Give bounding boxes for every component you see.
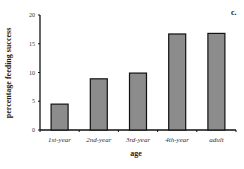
y-tick-label: 0 xyxy=(32,127,35,133)
x-tick-label: 1st-year xyxy=(48,136,71,144)
x-tick-label: 3rd-year xyxy=(125,136,151,144)
x-axis: 1st-year2nd-year3rd-year4th-yearadult xyxy=(40,130,236,144)
y-tick-label: 10 xyxy=(29,70,35,76)
y-tick-label: 5 xyxy=(32,98,35,104)
x-tick-label: 2nd-year xyxy=(86,136,112,144)
y-tick-label: 20 xyxy=(29,12,35,18)
bar-1st-year xyxy=(51,104,68,130)
x-tick-label: adult xyxy=(209,136,224,144)
bar-chart: c. 05101520 1st-year2nd-year3rd-year4th-… xyxy=(0,0,244,169)
bars xyxy=(51,33,225,130)
bar-3rd-year xyxy=(130,73,147,130)
x-tick-label: 4th-year xyxy=(165,136,189,144)
bar-2nd-year xyxy=(90,79,107,130)
x-axis-title: age xyxy=(130,149,142,158)
y-axis-title: percentage feeding success xyxy=(4,28,13,119)
bar-adult xyxy=(208,33,225,130)
y-axis: 05101520 xyxy=(29,12,40,133)
panel-label: c. xyxy=(231,8,237,17)
bar-4th-year xyxy=(169,34,186,130)
y-tick-label: 15 xyxy=(29,41,35,47)
